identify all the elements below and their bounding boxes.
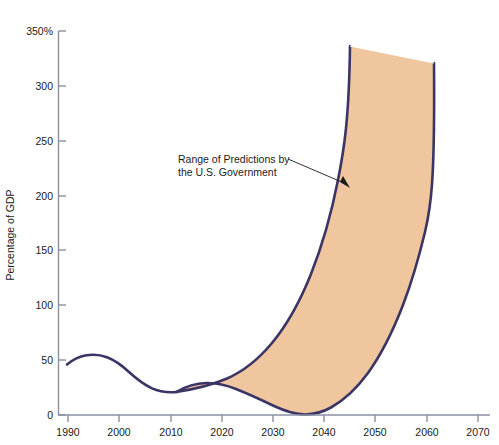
chart-canvas: 350% 300 250 200 150 100 50 0 1990 2000 …	[0, 0, 499, 445]
x-tick-label-2010: 2010	[159, 426, 183, 438]
x-tick-label-2000: 2000	[107, 426, 131, 438]
y-tick-label-0: 0	[47, 409, 53, 421]
x-tick-label-1990: 1990	[56, 426, 80, 438]
y-tick-label-100: 100	[35, 299, 53, 311]
y-tick-label-200: 200	[35, 190, 53, 202]
x-tick-label-2040: 2040	[312, 426, 336, 438]
x-tick-label-2020: 2020	[210, 426, 234, 438]
x-axis-tick-labels: 1990 2000 2010 2020 2030 2040 2050 2060 …	[56, 426, 490, 438]
historical-debt-line	[67, 355, 176, 392]
annotation-leader-line	[288, 159, 344, 183]
y-tick-label-250: 250	[35, 135, 53, 147]
y-axis-ticks	[59, 31, 67, 415]
annotation-group: Range of Predictions by the U.S. Governm…	[178, 153, 350, 188]
x-tick-label-2070: 2070	[466, 426, 490, 438]
y-tick-label-350: 350%	[26, 25, 53, 37]
x-axis-ticks	[68, 415, 478, 422]
y-tick-label-300: 300	[35, 80, 53, 92]
annotation-line-2: the U.S. Government	[178, 166, 277, 178]
y-tick-label-50: 50	[41, 354, 53, 366]
y-axis-title: Percentage of GDP	[4, 189, 16, 280]
y-axis-tick-labels: 350% 300 250 200 150 100 50 0	[26, 25, 53, 421]
prediction-band-fill	[176, 46, 434, 414]
chart-figure: 350% 300 250 200 150 100 50 0 1990 2000 …	[0, 0, 499, 445]
annotation-line-1: Range of Predictions by	[178, 153, 290, 165]
x-tick-label-2050: 2050	[363, 426, 387, 438]
prediction-band-group	[176, 46, 434, 414]
y-tick-label-150: 150	[35, 244, 53, 256]
x-tick-label-2030: 2030	[261, 426, 285, 438]
x-tick-label-2060: 2060	[415, 426, 439, 438]
